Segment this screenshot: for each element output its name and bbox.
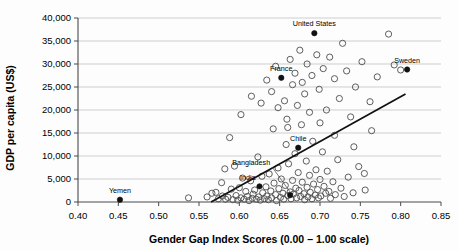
data-point <box>227 135 233 141</box>
data-point <box>332 192 338 198</box>
x-tick-labels-group: 0.400.450.500.550.600.650.700.750.800.85 <box>69 210 451 221</box>
data-point <box>303 158 309 164</box>
data-point <box>273 198 279 204</box>
point-label-france: France <box>270 64 292 73</box>
data-point <box>185 195 191 201</box>
data-point <box>320 66 326 72</box>
data-point <box>271 180 277 186</box>
data-point <box>302 91 308 97</box>
highlighted-data-point <box>117 197 122 202</box>
data-point <box>299 79 305 85</box>
x-tick-label: 0.70 <box>311 210 330 221</box>
data-point <box>238 112 244 118</box>
data-point <box>314 186 320 192</box>
y-tick-label: 0 <box>66 196 71 207</box>
x-tick-label: 0.80 <box>391 210 410 221</box>
data-point <box>264 77 270 83</box>
y-tick-label: 25,000 <box>42 81 71 92</box>
data-point <box>361 170 367 176</box>
y-tick-labels-group: 05,00010,00015,00020,00025,00030,00035,0… <box>42 12 71 207</box>
point-label-yemen: Yemen <box>109 186 131 195</box>
data-point <box>285 161 291 167</box>
data-point <box>374 74 380 80</box>
data-point <box>289 177 295 183</box>
highlighted-data-point <box>287 192 292 197</box>
y-tick-label: 5,000 <box>47 173 71 184</box>
x-axis-title: Gender Gap Index Scores (0.00 – 1.00 sca… <box>149 233 369 245</box>
highlighted-data-point <box>296 145 301 150</box>
data-point <box>336 95 342 101</box>
chart-canvas: YemenIndiaBangladeshChileFranceUnited St… <box>0 0 458 251</box>
x-tick-label: 0.60 <box>230 210 249 221</box>
data-point <box>331 76 337 82</box>
data-point <box>285 124 291 130</box>
x-tick-label: 0.85 <box>432 210 451 221</box>
label-leader-line <box>272 167 290 192</box>
y-axis-title: GDP per capita (US$) <box>4 65 16 170</box>
data-point <box>258 100 264 106</box>
data-point <box>281 98 287 104</box>
data-point <box>294 102 300 108</box>
data-point <box>350 190 356 196</box>
y-tick-label: 10,000 <box>42 150 71 161</box>
data-point <box>327 54 333 60</box>
x-tick-label: 0.75 <box>351 210 370 221</box>
data-point <box>362 187 368 193</box>
data-point <box>218 180 224 186</box>
data-point <box>297 47 303 53</box>
data-point <box>306 172 312 178</box>
data-point <box>309 196 315 202</box>
data-point <box>270 126 276 132</box>
x-tick-label: 0.45 <box>109 210 128 221</box>
point-label-united-states: United States <box>293 19 337 28</box>
data-point <box>341 193 347 199</box>
y-tick-label: 40,000 <box>42 12 71 23</box>
data-point <box>309 72 315 78</box>
x-tick-label: 0.40 <box>69 210 88 221</box>
data-point <box>351 144 357 150</box>
x-tick-label: 0.55 <box>190 210 209 221</box>
highlighted-data-point <box>312 30 317 35</box>
data-point <box>209 190 215 196</box>
data-point <box>269 89 275 95</box>
data-point <box>348 114 354 120</box>
y-tick-label: 35,000 <box>42 35 71 46</box>
highlighted-data-point <box>279 75 284 80</box>
data-point <box>317 120 323 126</box>
data-point <box>295 169 301 175</box>
data-point <box>335 157 341 163</box>
data-point <box>213 189 219 195</box>
point-label-india: India <box>240 173 256 182</box>
data-point <box>298 122 304 128</box>
gridlines-group <box>78 18 441 179</box>
data-point <box>283 141 289 147</box>
x-tick-label: 0.50 <box>149 210 168 221</box>
y-tick-label: 30,000 <box>42 58 71 69</box>
data-point <box>338 185 344 191</box>
x-tick-marks-group <box>78 202 441 206</box>
scatter-points-group <box>185 31 403 204</box>
data-point <box>344 68 350 74</box>
data-point <box>385 31 391 37</box>
point-label-bangladesh: Bangladesh <box>232 158 270 167</box>
data-point <box>248 93 254 99</box>
data-point <box>319 149 325 155</box>
data-point <box>313 167 319 173</box>
data-point <box>222 166 228 172</box>
point-label-chile: Chile <box>290 134 306 143</box>
data-point <box>317 176 323 182</box>
data-point <box>292 70 298 76</box>
point-label-sweden: Sweden <box>394 56 420 65</box>
highlighted-data-point <box>257 184 262 189</box>
data-point <box>398 67 404 73</box>
x-tick-label: 0.65 <box>270 210 289 221</box>
y-tick-label: 15,000 <box>42 127 71 138</box>
data-point <box>314 52 320 58</box>
data-point <box>252 187 258 193</box>
data-point <box>294 195 300 201</box>
data-point <box>324 168 330 174</box>
data-point <box>287 56 293 62</box>
data-point <box>299 179 305 185</box>
y-tick-label: 20,000 <box>42 104 71 115</box>
data-point <box>367 99 373 105</box>
